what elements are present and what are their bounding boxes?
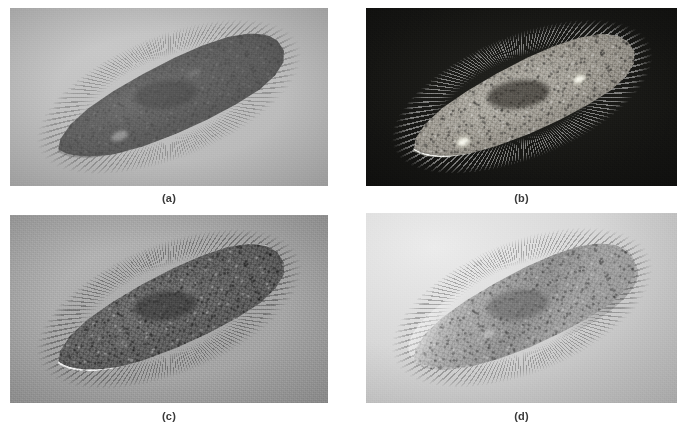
panel-b-darkfield <box>366 8 677 186</box>
paramecium-d <box>393 222 651 394</box>
panel-c-caption: (c) <box>10 410 328 422</box>
panel-a-caption: (a) <box>10 192 328 204</box>
panel-b-image <box>366 8 677 186</box>
panel-c-phase-contrast <box>10 215 328 403</box>
paramecium-a <box>39 13 300 182</box>
cell-body <box>38 222 300 395</box>
panel-c-image <box>10 215 328 403</box>
cell-body <box>394 14 650 181</box>
paramecium-c <box>38 222 300 395</box>
panel-a-image <box>10 8 328 186</box>
panel-d-dic <box>366 213 677 403</box>
panel-d-image <box>366 213 677 403</box>
panel-b-caption: (b) <box>366 192 677 204</box>
figure-plate: (a) (b) <box>0 0 692 435</box>
cell-body <box>39 13 300 182</box>
panel-d-caption: (d) <box>366 410 677 422</box>
cell-body <box>393 222 651 394</box>
paramecium-b <box>394 14 650 181</box>
panel-a-brightfield <box>10 8 328 186</box>
